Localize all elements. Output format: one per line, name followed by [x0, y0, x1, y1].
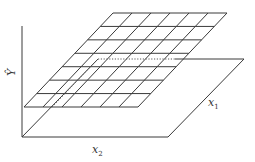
surface-grid-col-line — [24, 13, 113, 107]
x1-axis-label: x1 — [208, 96, 219, 111]
x2-axis-label: x2 — [92, 143, 103, 158]
surface-grid-col-line — [100, 13, 189, 107]
x2-label-subscript: 2 — [98, 150, 102, 158]
y-hat-axis-label: Ŷ — [4, 67, 18, 76]
projection-dotted-lines — [52, 59, 175, 107]
response-surface-diagram: Ŷ x1 x2 — [0, 0, 255, 162]
surface-grid-col-line — [81, 13, 170, 107]
surface-grid-col-line — [119, 13, 208, 107]
surface-grid-col-line — [43, 13, 132, 107]
surface-grid-col-line — [138, 13, 227, 107]
surface-grid-col-line — [62, 13, 151, 107]
base-plane-edge — [168, 59, 244, 137]
x1-label-subscript: 1 — [214, 103, 218, 111]
surface-grid — [24, 13, 227, 107]
